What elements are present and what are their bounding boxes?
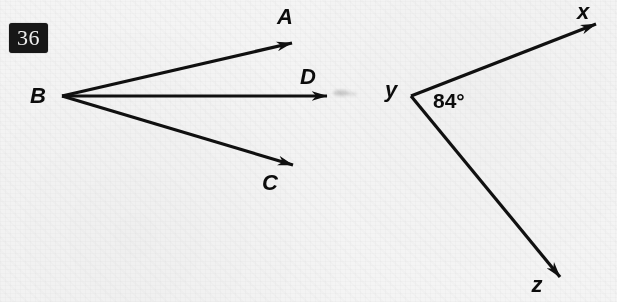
geometry-diagram: B A D C y x z 84° xyxy=(0,0,617,302)
ray-yx xyxy=(411,24,596,96)
label-point-z: z xyxy=(531,272,543,297)
right-figure: y x z 84° xyxy=(384,0,596,297)
angle-measure-label: 84° xyxy=(433,89,465,112)
label-point-A: A xyxy=(276,4,293,29)
figure-page: B A D C y x z 84° 36 xyxy=(0,0,617,302)
label-point-C: C xyxy=(262,170,279,195)
label-point-B: B xyxy=(30,83,46,108)
exercise-number-text: 36 xyxy=(17,27,40,49)
label-point-y: y xyxy=(384,77,399,102)
label-point-x: x xyxy=(576,0,590,24)
ray-yz xyxy=(411,96,560,277)
label-point-D: D xyxy=(300,64,316,89)
left-figure: B A D C xyxy=(30,4,327,195)
ray-BA xyxy=(62,43,292,96)
ray-BC xyxy=(62,96,293,165)
exercise-number-badge: 36 xyxy=(9,23,48,53)
